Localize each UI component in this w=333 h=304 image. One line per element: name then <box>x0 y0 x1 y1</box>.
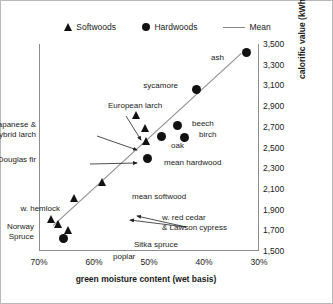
y-tick-label: 3,500 <box>263 39 284 49</box>
point-label-norway: Norway Spruce <box>7 222 34 241</box>
y-tick-label: 2,900 <box>263 101 284 111</box>
x-axis-title: green moisture content (wet basis) <box>1 274 291 284</box>
point-label-birch: birch <box>199 130 216 140</box>
y-axis-title: calorific value (kWh/t) <box>297 0 307 79</box>
y-tick-label: 2,100 <box>263 184 284 194</box>
line-icon <box>223 27 245 28</box>
y-tick-label: 2,700 <box>263 122 284 132</box>
point-label-w-red-cedar: w. red cedar & Lawson cypress <box>162 213 227 232</box>
y-tick-label: 2,300 <box>263 163 284 173</box>
legend-item-mean: Mean <box>223 22 270 32</box>
point-label-sitka-spruce: Sitka spruce <box>134 240 178 250</box>
circle-icon <box>142 23 151 32</box>
x-tick-label: 60% <box>74 257 114 267</box>
y-tick-label: 1,700 <box>263 225 284 235</box>
point-label-oak: oak <box>171 141 184 151</box>
point-label-mean-hardwood: mean hardwood <box>164 158 221 168</box>
legend-item-softwoods: Softwoods <box>64 22 116 32</box>
legend-label-hardwoods: Hardwoods <box>154 22 197 32</box>
y-tick-label: 1,900 <box>263 205 284 215</box>
x-tick-label: 70% <box>19 257 59 267</box>
y-tick-label: 2,500 <box>263 143 284 153</box>
x-tick-label: 50% <box>129 257 169 267</box>
y-tick-label: 1,500 <box>263 246 284 256</box>
point-label-mean-softwood: mean softwood <box>132 192 186 202</box>
x-tick-label: 30% <box>239 257 279 267</box>
point-label-european-larch: European larch <box>108 101 162 111</box>
point-label-beech: beech <box>192 119 214 129</box>
annotation-leader-lines <box>40 44 260 251</box>
point-label-sycamore: sycamore <box>143 81 178 91</box>
chart-card: Softwoods Hardwoods Mean ashsycamoreEuro… <box>0 0 333 304</box>
point-label-ash: ash <box>211 53 224 63</box>
point-label-w-hemlock: w. hemlock <box>20 204 60 214</box>
legend-item-hardwoods: Hardwoods <box>142 22 198 32</box>
legend-label-softwoods: Softwoods <box>76 22 116 32</box>
point-label-douglas-fir: Douglas fir <box>0 155 36 165</box>
chart-legend: Softwoods Hardwoods Mean <box>1 17 333 37</box>
y-tick-label: 3,100 <box>263 80 284 90</box>
y-tick-label: 3,300 <box>263 60 284 70</box>
point-label-japanese: Japanese & hybrid larch <box>0 120 36 139</box>
legend-label-mean: Mean <box>249 22 270 32</box>
plot-area: ashsycamoreEuropean larchJapanese & hybr… <box>39 44 259 251</box>
x-tick-label: 40% <box>184 257 224 267</box>
triangle-icon <box>64 23 72 31</box>
